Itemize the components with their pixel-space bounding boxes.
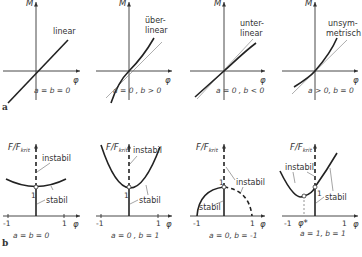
stabil-label: stabil bbox=[325, 193, 347, 202]
phi-star-label: φ* bbox=[298, 218, 308, 228]
panel-b3: F/Fkrit φ -1 1 1 instabil stabil a = 0, … bbox=[190, 142, 266, 240]
panel-caption: a = 0, b = -1 bbox=[209, 231, 257, 240]
figure-canvas: M φ linear a = b = 0 M φ über- linear a … bbox=[0, 0, 362, 257]
leader-line bbox=[307, 172, 314, 176]
tick-label-neg: -1 bbox=[96, 219, 104, 228]
instabil-label: instabil bbox=[42, 154, 71, 163]
panel-a1-linear: M φ linear a = b = 0 bbox=[3, 0, 80, 103]
instabil-post-buckling-curve bbox=[224, 187, 252, 216]
stabil-label: stabil bbox=[46, 196, 68, 205]
y-axis-label: M bbox=[119, 0, 127, 8]
y-axis-label: M bbox=[214, 0, 222, 8]
tick-label-neg: -1 bbox=[193, 219, 201, 228]
curve-label-line2: linear bbox=[145, 26, 168, 35]
instabil-post-buckling-curve bbox=[280, 171, 304, 197]
panel-caption: a = 0 , b < 0 bbox=[216, 86, 264, 95]
leader-line bbox=[37, 200, 45, 204]
instabil-label: instabil bbox=[285, 163, 314, 172]
panel-caption: a = 0 , b = 1 bbox=[111, 231, 159, 240]
panel-caption: a = b = 0 bbox=[13, 231, 49, 240]
part-b-label: b bbox=[2, 238, 8, 248]
y-axis-label: M bbox=[305, 0, 313, 8]
x-axis-label: φ bbox=[260, 219, 266, 229]
panel-a3-unterlinear: M φ unter- linear a = 0 , b < 0 bbox=[190, 0, 266, 100]
curve-label-line1: unsym- bbox=[328, 19, 358, 28]
x-axis-label: φ bbox=[353, 219, 359, 229]
x-axis-label: φ bbox=[165, 75, 171, 85]
y-axis-label: M bbox=[26, 0, 34, 8]
stabil-label: stabil bbox=[139, 196, 161, 205]
leader-line bbox=[226, 167, 235, 180]
curve-label-line1: unter- bbox=[240, 19, 264, 28]
panel-b2: F/Fkrit φ -1 1 1 instabil stabil a = 0 ,… bbox=[96, 142, 172, 240]
panel-caption: a = 0 , b > 0 bbox=[113, 86, 161, 95]
panel-caption: a = b = 0 bbox=[34, 86, 70, 95]
y-axis-label: F/Fkrit bbox=[106, 142, 129, 153]
tick-label-pos: 1 bbox=[156, 219, 161, 228]
tick-label-neg: -1 bbox=[284, 219, 292, 228]
leader-line bbox=[130, 200, 138, 204]
tick-label-pos: 1 bbox=[342, 219, 347, 228]
instabil-label: instabil bbox=[236, 178, 265, 187]
x-axis-label: φ bbox=[73, 75, 79, 85]
curve-label-line2: linear bbox=[240, 29, 263, 38]
panel-b1: F/Fkrit φ -1 1 1 instabil stabil a = b =… bbox=[3, 142, 80, 240]
stabil-label: stabil bbox=[199, 203, 221, 212]
panel-a2-ueberlinear: M φ über- linear a = 0 , b > 0 bbox=[96, 0, 172, 103]
x-axis-label: φ bbox=[260, 75, 266, 85]
panel-caption: a > 0, b = 0 bbox=[308, 86, 354, 95]
bifurcation-point bbox=[34, 185, 38, 189]
leader-line bbox=[37, 163, 50, 172]
panel-caption: a = 1, b = 1 bbox=[300, 229, 346, 238]
y-axis-label: F/Fkrit bbox=[196, 142, 219, 153]
leader-line bbox=[293, 172, 295, 183]
limit-point bbox=[302, 194, 306, 198]
curve-label-line2: metrisch bbox=[326, 29, 361, 38]
bifurcation-point bbox=[127, 185, 131, 189]
curve-label: linear bbox=[53, 27, 76, 36]
panel-a4-unsymmetrisch: M φ unsym- metrisch a > 0, b = 0 bbox=[282, 0, 361, 100]
unsymmetrisch-curve bbox=[294, 38, 337, 87]
tick-label-pos: 1 bbox=[250, 219, 255, 228]
leader-line bbox=[146, 185, 148, 195]
x-axis-label: φ bbox=[353, 75, 359, 85]
part-a-label: a bbox=[2, 102, 8, 112]
tick-label-one: 1 bbox=[317, 189, 322, 198]
y-axis-label: F/Fkrit bbox=[290, 142, 313, 153]
leader-line bbox=[330, 168, 333, 191]
panel-b4: F/Fkrit φ -1 1 1 φ* instabil stabil a = … bbox=[280, 142, 359, 238]
leader-line bbox=[51, 186, 53, 190]
leader-line bbox=[241, 187, 243, 192]
tick-label-one: 1 bbox=[219, 178, 224, 187]
y-axis-label: F/Fkrit bbox=[8, 142, 31, 153]
x-axis-label: φ bbox=[166, 219, 172, 229]
tick-label-one: 1 bbox=[31, 191, 36, 200]
instabil-label: instabil bbox=[133, 146, 162, 155]
tick-label-one: 1 bbox=[124, 191, 129, 200]
leader-line bbox=[130, 156, 137, 164]
curve-label-line1: über- bbox=[145, 16, 166, 25]
tick-label-pos: 1 bbox=[62, 219, 67, 228]
tick-label-neg: -1 bbox=[3, 219, 11, 228]
x-axis-label: φ bbox=[73, 219, 79, 229]
